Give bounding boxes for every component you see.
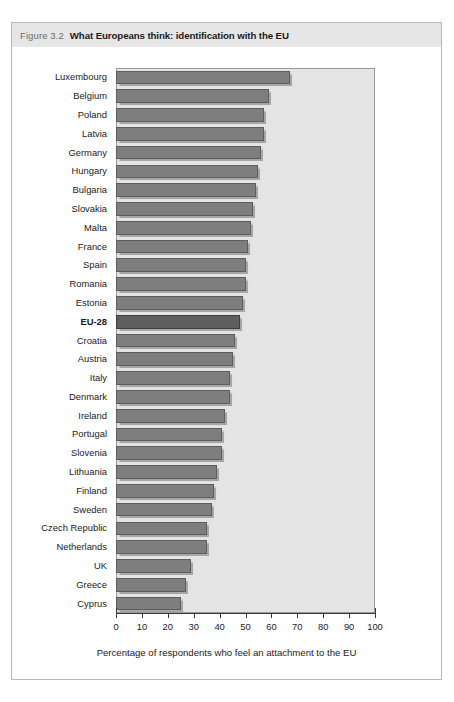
bar-austria: [116, 352, 233, 366]
x-axis-tick-label: 50: [240, 621, 250, 632]
y-axis-label-slovenia: Slovenia: [71, 448, 107, 457]
bar-czech-republic: [116, 522, 207, 536]
y-axis-label-spain: Spain: [83, 260, 107, 269]
x-axis-tick: [349, 613, 350, 618]
y-axis-label-cyprus: Cyprus: [77, 599, 107, 608]
figure-container: Figure 3.2 What Europeans think: identif…: [11, 22, 442, 680]
bar-sweden: [116, 503, 212, 517]
x-axis-end-cap: [375, 608, 376, 614]
bar-bulgaria: [116, 183, 256, 197]
x-axis-tick-label: 70: [292, 621, 302, 632]
bar-slovenia: [116, 446, 222, 460]
y-axis-label-sweden: Sweden: [73, 505, 107, 514]
bar-portugal: [116, 428, 222, 442]
bar-netherlands: [116, 540, 207, 554]
x-axis-tick-label: 20: [163, 621, 173, 632]
bar-finland: [116, 484, 214, 498]
y-axis-label-uk: UK: [94, 561, 107, 570]
x-axis-tick-label: 40: [214, 621, 224, 632]
y-axis-label-bulgaria: Bulgaria: [73, 185, 107, 194]
figure-header: Figure 3.2 What Europeans think: identif…: [12, 23, 441, 47]
bar-chart: LuxembourgBelgiumPolandLatviaGermanyHung…: [12, 47, 441, 681]
bar-uk: [116, 559, 191, 573]
bar-slovakia: [116, 202, 253, 216]
bar-croatia: [116, 334, 235, 348]
bar-spain: [116, 258, 246, 272]
y-axis-label-lithuania: Lithuania: [69, 467, 107, 476]
x-axis-tick-label: 80: [318, 621, 328, 632]
bar-poland: [116, 108, 264, 122]
x-axis-tick-label: 10: [137, 621, 147, 632]
x-axis-tick: [220, 613, 221, 618]
bar-estonia: [116, 296, 243, 310]
bar-luxembourg: [116, 71, 290, 85]
y-axis-label-belgium: Belgium: [73, 91, 107, 100]
figure-title: What Europeans think: identification wit…: [70, 30, 289, 41]
x-axis-tick-label: 0: [113, 621, 118, 632]
x-axis-tick: [271, 613, 272, 618]
y-axis-label-austria: Austria: [78, 354, 107, 363]
y-axis-label-france: France: [78, 242, 107, 251]
bar-ireland: [116, 409, 225, 423]
y-axis-label-luxembourg: Luxembourg: [55, 72, 107, 81]
y-axis-label-italy: Italy: [90, 373, 107, 382]
bar-denmark: [116, 390, 230, 404]
y-axis-label-finland: Finland: [76, 486, 107, 495]
bar-cyprus: [116, 597, 181, 611]
bar-belgium: [116, 89, 269, 103]
x-axis-tick-label: 100: [367, 621, 383, 632]
y-axis-label-latvia: Latvia: [82, 129, 107, 138]
y-axis-label-eu-28: EU-28: [80, 317, 107, 326]
bar-greece: [116, 578, 186, 592]
bar-france: [116, 240, 248, 254]
bars-layer: [116, 68, 375, 613]
y-axis-label-hungary: Hungary: [72, 166, 107, 175]
y-axis-label-czech-republic: Czech Republic: [41, 523, 107, 532]
y-axis-label-denmark: Denmark: [69, 392, 107, 401]
bar-lithuania: [116, 465, 217, 479]
x-axis-tick: [297, 613, 298, 618]
bar-malta: [116, 221, 251, 235]
x-axis-title: Percentage of respondents who feel an at…: [12, 647, 441, 658]
figure-number: Figure 3.2: [20, 30, 64, 41]
y-axis-label-poland: Poland: [78, 110, 107, 119]
y-axis-label-portugal: Portugal: [72, 429, 107, 438]
y-axis-label-germany: Germany: [68, 148, 107, 157]
y-axis-label-ireland: Ireland: [78, 411, 107, 420]
x-axis-end-cap: [116, 608, 117, 614]
x-axis-tick: [142, 613, 143, 618]
bar-romania: [116, 277, 246, 291]
x-axis-tick: [246, 613, 247, 618]
x-axis-tick-label: 60: [266, 621, 276, 632]
x-axis-tick: [168, 613, 169, 618]
bar-eu-28: [116, 315, 240, 329]
x-axis-tick-label: 90: [344, 621, 354, 632]
y-axis-label-slovakia: Slovakia: [72, 204, 107, 213]
x-axis-tick-label: 30: [188, 621, 198, 632]
y-axis-label-greece: Greece: [76, 580, 107, 589]
y-axis-label-malta: Malta: [84, 223, 107, 232]
x-axis-tick: [194, 613, 195, 618]
bar-italy: [116, 371, 230, 385]
y-axis-label-estonia: Estonia: [76, 298, 107, 307]
x-axis-tick: [323, 613, 324, 618]
y-axis-label-romania: Romania: [69, 279, 107, 288]
y-axis-label-netherlands: Netherlands: [56, 542, 107, 551]
bar-germany: [116, 146, 261, 160]
bar-hungary: [116, 165, 258, 179]
y-axis-label-croatia: Croatia: [77, 336, 107, 345]
bar-latvia: [116, 127, 264, 141]
y-axis-labels: LuxembourgBelgiumPolandLatviaGermanyHung…: [12, 68, 112, 613]
